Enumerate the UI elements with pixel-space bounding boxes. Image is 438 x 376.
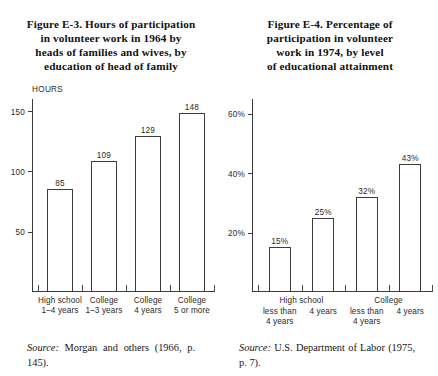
figure-e-3-plot-area: 5010015085109129148: [32, 99, 214, 292]
title-line: Figure E-4. Percentage of: [234, 17, 426, 31]
title-line: participation in volunteer: [234, 31, 426, 45]
y-axis-tick-label: 150: [11, 107, 25, 116]
category-label-line: 4 years: [126, 306, 170, 316]
figures-page: Figure E-3. Hours of participation in vo…: [0, 0, 438, 376]
category-label-line: 4 years: [258, 317, 302, 327]
x-axis-tick: [38, 285, 39, 292]
source-label: Source:: [27, 342, 59, 353]
title-line: in volunteer work in 1964 by: [18, 31, 204, 45]
category-label-line: 1–3 years: [82, 306, 126, 316]
category-label-line: College: [82, 296, 126, 306]
title-line: of educational attainment: [234, 59, 426, 73]
figure-e-3: Figure E-3. Hours of participation in vo…: [0, 0, 220, 376]
y-axis-tick: 20%: [248, 233, 252, 234]
y-axis-tick-label: 60%: [228, 110, 245, 119]
figure-e-4-category-labels: less than4 years4 yearsless than4 years4…: [252, 296, 432, 338]
category-label: less than4 years: [345, 307, 389, 328]
figure-e-4-source-note: Source: U.S. Department of Labor (1975, …: [239, 341, 415, 370]
bar-value-label: 15%: [271, 237, 288, 246]
figure-e-4-plot-area: 20%40%60%15%25%32%43%: [252, 99, 432, 292]
y-axis-tick-label: 100: [11, 167, 25, 176]
category-label-line: 1–4 years: [38, 306, 82, 316]
bar: 15%: [269, 247, 291, 292]
figure-e-3-source-note: Source: Morgan and others (1966, p. 145)…: [27, 341, 195, 370]
category-label: College4 years: [126, 296, 170, 317]
category-label-line: 4 years: [389, 307, 433, 317]
x-axis-tick: [214, 285, 215, 292]
x-axis-tick: [82, 285, 83, 292]
bar: 43%: [399, 164, 421, 292]
y-axis-tick: 40%: [248, 173, 252, 174]
category-label-line: 4 years: [345, 317, 389, 327]
bar-value-label: 85: [55, 179, 65, 188]
title-line: education of head of family: [18, 59, 204, 73]
category-label-line: 5 or more: [170, 306, 214, 316]
figure-e-3-title: Figure E-3. Hours of participation in vo…: [18, 17, 204, 73]
bar: 32%: [356, 197, 378, 292]
bar-value-label: 109: [97, 151, 111, 160]
category-label-line: College: [170, 296, 214, 306]
figure-e-4: Figure E-4. Percentage of participation …: [220, 0, 438, 376]
title-line: work in 1974, by level: [234, 45, 426, 59]
category-label-line: 4 years: [302, 307, 346, 317]
bar: 129: [135, 136, 161, 292]
y-axis-tick: 150: [28, 111, 32, 112]
x-axis-tick: [302, 285, 303, 292]
bar-value-label: 43%: [402, 154, 419, 163]
category-label-line: High school: [38, 296, 82, 306]
y-axis-tick-label: 20%: [228, 229, 245, 238]
x-axis-tick: [170, 285, 171, 292]
y-axis-unit-label: HOURS: [32, 85, 63, 94]
source-label: Source:: [239, 342, 271, 353]
category-group-label: College: [345, 296, 432, 306]
y-axis-line: [32, 99, 33, 292]
category-label: College5 or more: [170, 296, 214, 317]
y-axis-tick: 60%: [248, 114, 252, 115]
x-axis-tick: [258, 285, 259, 292]
category-label: 4 years: [302, 307, 346, 317]
bar-value-label: 148: [185, 103, 199, 112]
y-axis-line: [252, 99, 253, 292]
figure-e-4-title: Figure E-4. Percentage of participation …: [234, 17, 426, 73]
bar-value-label: 129: [141, 126, 155, 135]
y-axis-tick: 100: [28, 171, 32, 172]
x-axis-tick: [389, 285, 390, 292]
category-label: less than4 years: [258, 307, 302, 328]
y-axis-tick: 50: [28, 232, 32, 233]
y-axis-tick-label: 50: [15, 228, 25, 237]
bar: 109: [91, 161, 117, 292]
x-axis-tick: [345, 285, 346, 292]
bar-value-label: 25%: [315, 208, 332, 217]
y-axis-tick-label: 40%: [228, 169, 245, 178]
bar: 85: [47, 189, 73, 292]
category-label: College1–3 years: [82, 296, 126, 317]
title-line: heads of families and wives, by: [18, 45, 204, 59]
category-label-line: less than: [345, 307, 389, 317]
category-label-line: College: [126, 296, 170, 306]
x-axis-tick: [432, 285, 433, 292]
category-group-label: High school: [258, 296, 345, 306]
bar: 148: [179, 113, 205, 292]
figure-e-3-category-labels: High school1–4 yearsCollege1–3 yearsColl…: [32, 296, 214, 330]
category-label: High school1–4 years: [38, 296, 82, 317]
bar: 25%: [312, 218, 334, 292]
title-line: Figure E-3. Hours of participation: [18, 17, 204, 31]
bar-value-label: 32%: [358, 187, 375, 196]
category-label-line: less than: [258, 307, 302, 317]
category-label: 4 years: [389, 307, 433, 317]
x-axis-tick: [126, 285, 127, 292]
